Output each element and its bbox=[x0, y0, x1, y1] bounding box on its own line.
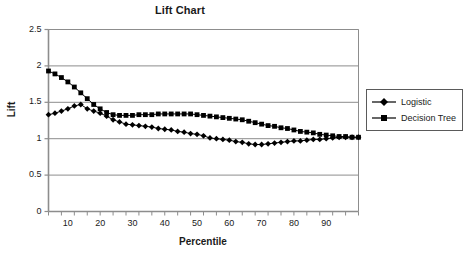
data-point-marker bbox=[227, 116, 232, 121]
data-point-marker bbox=[246, 119, 251, 124]
data-point-marker bbox=[59, 75, 64, 80]
data-point-marker bbox=[142, 123, 148, 129]
data-point-marker bbox=[279, 125, 284, 130]
data-point-marker bbox=[130, 113, 135, 118]
x-tick-label: 60 bbox=[217, 218, 241, 228]
x-tick-label: 90 bbox=[314, 218, 338, 228]
data-point-marker bbox=[155, 126, 161, 132]
data-point-marker bbox=[292, 128, 297, 133]
data-point-marker bbox=[207, 135, 213, 141]
data-point-marker bbox=[311, 130, 316, 135]
data-point-marker bbox=[111, 112, 116, 117]
data-point-marker bbox=[117, 113, 122, 118]
square-marker-icon bbox=[371, 112, 397, 124]
data-point-marker bbox=[59, 108, 65, 114]
data-point-marker bbox=[117, 119, 123, 125]
data-point-marker bbox=[285, 126, 290, 131]
data-point-marker bbox=[350, 135, 355, 140]
data-point-marker bbox=[304, 137, 310, 143]
data-point-marker bbox=[124, 113, 129, 118]
data-point-marker bbox=[201, 133, 207, 139]
data-point-marker bbox=[304, 130, 309, 135]
data-point-marker bbox=[46, 112, 52, 118]
data-point-marker bbox=[259, 122, 264, 127]
data-point-marker bbox=[201, 113, 206, 118]
data-point-marker bbox=[104, 110, 109, 115]
data-point-marker bbox=[240, 117, 245, 122]
data-point-marker bbox=[266, 123, 271, 128]
legend-item-logistic[interactable]: Logistic bbox=[371, 94, 456, 110]
data-point-marker bbox=[98, 106, 103, 111]
data-point-marker bbox=[143, 112, 148, 117]
data-point-marker bbox=[233, 117, 238, 122]
y-tick-label: 1 bbox=[0, 133, 42, 143]
data-point-marker bbox=[71, 103, 77, 109]
data-point-marker bbox=[285, 139, 291, 145]
y-tick-label: 0.5 bbox=[0, 169, 42, 179]
data-point-marker bbox=[310, 137, 316, 143]
data-point-marker bbox=[188, 112, 193, 117]
legend-item-decision-tree[interactable]: Decision Tree bbox=[371, 110, 456, 126]
y-axis-title: Lift bbox=[6, 90, 17, 130]
data-point-marker bbox=[65, 80, 70, 85]
data-point-marker bbox=[272, 124, 277, 129]
data-point-marker bbox=[317, 137, 323, 143]
data-point-marker bbox=[330, 133, 335, 138]
lift-chart-figure: Lift Chart 00.511.522.5 1020304050607080… bbox=[0, 0, 464, 253]
data-point-marker bbox=[175, 129, 181, 135]
data-point-marker bbox=[72, 85, 77, 90]
x-tick-label: 10 bbox=[56, 218, 80, 228]
x-tick-label: 80 bbox=[282, 218, 306, 228]
data-point-marker bbox=[356, 135, 361, 140]
series-logistic bbox=[46, 102, 362, 148]
data-point-marker bbox=[317, 132, 322, 137]
data-point-marker bbox=[324, 133, 329, 138]
data-point-marker bbox=[84, 106, 90, 112]
data-point-marker bbox=[233, 139, 239, 145]
diamond-marker-icon bbox=[371, 96, 397, 108]
data-point-marker bbox=[149, 124, 155, 130]
y-tick-label: 2.5 bbox=[0, 24, 42, 34]
data-point-marker bbox=[220, 115, 225, 120]
data-point-marker bbox=[253, 120, 258, 125]
data-point-marker bbox=[156, 112, 161, 117]
data-point-marker bbox=[85, 96, 90, 101]
x-axis-title: Percentile bbox=[48, 236, 358, 247]
data-point-marker bbox=[91, 108, 97, 114]
data-point-marker bbox=[265, 141, 271, 147]
data-point-marker bbox=[91, 102, 96, 107]
legend-item-label: Decision Tree bbox=[401, 113, 456, 123]
data-point-marker bbox=[78, 90, 83, 95]
data-point-marker bbox=[278, 139, 284, 145]
data-point-marker bbox=[214, 114, 219, 119]
data-point-marker bbox=[208, 114, 213, 119]
data-point-marker bbox=[65, 106, 71, 112]
data-point-marker bbox=[162, 126, 168, 132]
data-point-marker bbox=[252, 142, 258, 148]
data-point-marker bbox=[220, 137, 226, 143]
data-point-marker bbox=[46, 69, 51, 74]
data-point-marker bbox=[246, 141, 252, 147]
data-point-marker bbox=[272, 140, 278, 146]
data-point-marker bbox=[214, 136, 220, 142]
data-point-marker bbox=[175, 112, 180, 117]
data-point-marker bbox=[123, 121, 129, 127]
y-tick-label: 2 bbox=[0, 60, 42, 70]
data-point-marker bbox=[337, 134, 342, 139]
x-tick-label: 30 bbox=[120, 218, 144, 228]
data-point-marker bbox=[162, 112, 167, 117]
data-point-marker bbox=[149, 112, 154, 117]
x-tick-label: 20 bbox=[88, 218, 112, 228]
data-point-marker bbox=[188, 131, 194, 137]
data-point-marker bbox=[136, 123, 142, 129]
data-point-marker bbox=[130, 122, 136, 128]
data-point-marker bbox=[259, 142, 265, 148]
data-point-marker bbox=[169, 112, 174, 117]
y-tick-label: 0 bbox=[0, 206, 42, 216]
data-point-marker bbox=[343, 134, 348, 139]
legend-item-label: Logistic bbox=[401, 97, 432, 107]
data-point-marker bbox=[168, 127, 174, 133]
data-point-marker bbox=[137, 112, 142, 117]
data-point-marker bbox=[239, 139, 245, 145]
chart-legend: LogisticDecision Tree bbox=[366, 89, 463, 131]
